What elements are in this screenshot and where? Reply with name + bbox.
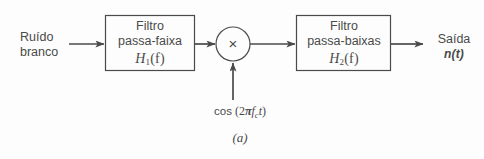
input-label-line2: branco — [20, 45, 58, 59]
lowpass-tf-symbol: H — [329, 51, 339, 66]
input-label-line1: Ruído — [20, 30, 53, 44]
lowpass-transfer-function: H2(f) — [297, 51, 391, 67]
cos-open-paren: ( — [232, 104, 239, 118]
bandpass-transfer-function: H1(f) — [105, 51, 195, 67]
lowpass-filter-label: Filtro passa-baixas H2(f) — [297, 19, 391, 67]
bandpass-tf-arg: (f) — [150, 51, 165, 66]
block-diagram-figure: × Ruído branco Filtro passa-faixa H1(f) … — [0, 0, 484, 159]
lowpass-filter-line1: Filtro — [297, 19, 391, 33]
output-signal-name: n(t) — [426, 47, 482, 61]
cos-close-paren: ) — [262, 104, 266, 118]
oscillator-label: cos (2πfct) — [186, 104, 294, 120]
figure-caption: (a) — [212, 130, 268, 145]
output-label: Saída n(t) — [426, 32, 482, 61]
cos-function-name: cos — [214, 105, 232, 117]
lowpass-tf-arg: (f) — [344, 51, 359, 66]
multiplier-symbol: × — [219, 33, 247, 55]
input-label: Ruído branco — [20, 30, 98, 60]
bandpass-tf-symbol: H — [135, 51, 145, 66]
bandpass-filter-line2: passa-faixa — [105, 34, 195, 48]
bandpass-filter-label: Filtro passa-faixa H1(f) — [105, 19, 195, 67]
output-label-line1: Saída — [438, 32, 471, 46]
bandpass-filter-line1: Filtro — [105, 19, 195, 33]
lowpass-filter-line2: passa-baixas — [297, 34, 391, 48]
